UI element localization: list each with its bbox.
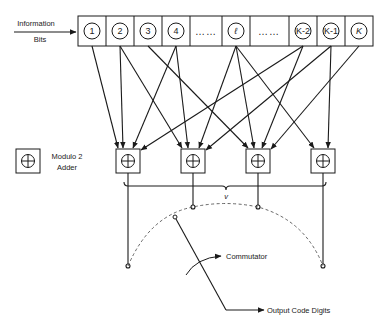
register-cell-2: 2 xyxy=(117,26,122,36)
commutator-rotation: Commutator xyxy=(186,252,268,275)
register-cell-l: ℓ xyxy=(234,26,238,36)
input-label-line1: Information xyxy=(17,19,55,28)
adder-2 xyxy=(181,149,205,173)
output-label: Output Code Digits xyxy=(267,306,331,315)
commutator-arm xyxy=(173,215,264,310)
register-cell-1: 1 xyxy=(89,26,94,36)
commutator-label: Commutator xyxy=(226,252,268,261)
tap-connections xyxy=(92,46,359,150)
input-label-line2: Bits xyxy=(34,35,47,44)
legend-label-line1: Modulo 2 xyxy=(52,152,83,161)
adder-3 xyxy=(246,149,270,173)
information-bits-input: Information Bits xyxy=(14,19,76,44)
legend-modulo-2-adder: Modulo 2 Adder xyxy=(16,149,82,173)
adder-4 xyxy=(311,149,335,173)
legend-label-line2: Adder xyxy=(57,163,78,172)
adders xyxy=(116,149,335,173)
register-cell-k-1: K-1 xyxy=(324,26,338,36)
brace-v: v xyxy=(124,182,326,201)
brace-label: v xyxy=(224,192,229,201)
register-cell-3: 3 xyxy=(145,26,150,36)
register-cell-labels: 1 2 3 4 …… ℓ …… K-2 K-1 K xyxy=(89,26,363,37)
register-cell-4: 4 xyxy=(173,26,178,36)
register-cell-k: K xyxy=(356,26,363,36)
convolutional-encoder-diagram: Information Bits 1 2 3 4 …… ℓ …… K-2 K-1… xyxy=(0,0,388,331)
rotation-arrow-icon xyxy=(186,256,221,275)
register-ellipsis-2: …… xyxy=(258,26,280,37)
adder-1 xyxy=(116,149,140,173)
register-ellipsis-1: …… xyxy=(195,26,217,37)
register-cell-k-2: K-2 xyxy=(296,26,310,36)
